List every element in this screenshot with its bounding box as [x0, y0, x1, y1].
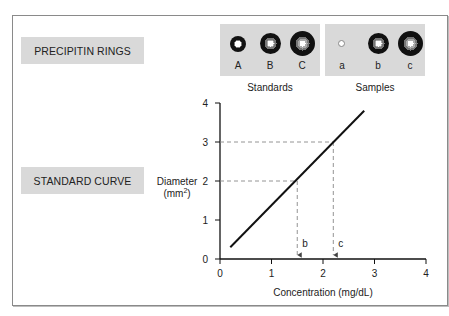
x-tick-label: 0	[217, 268, 223, 279]
x-tick-label: 3	[372, 268, 378, 279]
y-tick-label: 3	[202, 137, 208, 148]
x-tick-label: 2	[320, 268, 326, 279]
y-axis-unit: (mm2)	[163, 187, 190, 199]
x-tick-label: 1	[269, 268, 275, 279]
y-tick-label: 2	[202, 176, 208, 187]
y-tick-label: 4	[202, 98, 208, 109]
guide-label-b: b	[302, 238, 308, 249]
y-tick-label: 0	[202, 254, 208, 265]
y-tick-label: 1	[202, 215, 208, 226]
x-axis-title: Concentration (mg/dL)	[273, 287, 373, 298]
x-tick-label: 4	[423, 268, 429, 279]
y-axis-title: Diameter	[157, 176, 198, 187]
guide-label-c: c	[338, 238, 343, 249]
standard-curve-chart: 0123401234Concentration (mg/dL)Diameter(…	[0, 0, 449, 316]
